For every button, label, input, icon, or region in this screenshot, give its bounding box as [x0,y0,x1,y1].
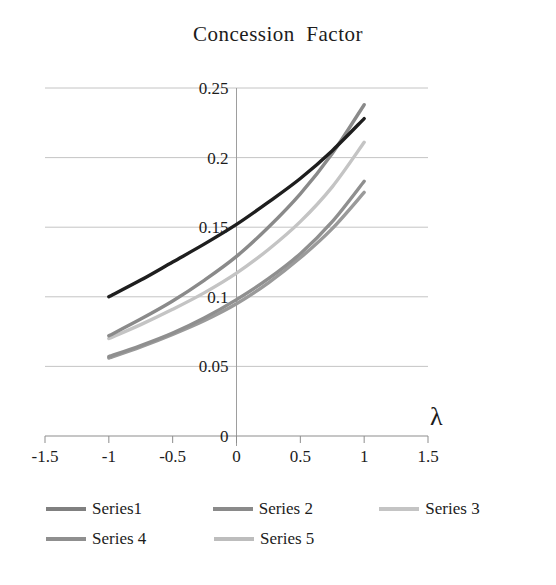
y-axis-tick-label: 0 [220,427,229,446]
x-axis-tick-label: -1.5 [32,447,59,466]
legend-item-series-2[interactable]: Series 2 [197,499,364,519]
legend-swatch-icon [214,537,254,541]
y-axis-tick-label: 0.15 [199,218,229,237]
x-axis-tick-label: 1.5 [417,447,438,466]
x-axis-tick-label: 0.5 [290,447,311,466]
legend-label: Series 3 [425,499,479,519]
legend-label: Series1 [92,499,142,519]
legend-swatch-icon [213,507,253,511]
legend-label: Series 5 [260,529,314,549]
x-axis-tick-label: -1 [102,447,116,466]
y-axis-tick-label: 0.2 [207,149,228,168]
legend-swatch-icon [379,507,419,511]
x-axis-tick-label: 0 [232,447,241,466]
y-axis-tick-label: 0.05 [199,357,229,376]
legend-row: Series1Series 2Series 3 [30,494,530,524]
legend-swatch-icon [46,537,86,541]
x-axis-label-lambda: λ [430,402,443,432]
plot-area: 0.250.20.150.10.050-1.5-1-0.500.511.5 [0,0,556,500]
legend-item-series-5[interactable]: Series 5 [198,529,366,549]
chart-container: Concession Factor 0.250.20.150.10.050-1.… [0,0,556,585]
legend-item-series1[interactable]: Series1 [30,499,197,519]
legend-item-series-4[interactable]: Series 4 [30,529,198,549]
legend-label: Series 2 [259,499,313,519]
y-axis-tick-label: 0.25 [199,79,229,98]
legend-item-series-3[interactable]: Series 3 [363,499,530,519]
legend-row: Series 4Series 5 [30,524,530,554]
x-axis-tick-label: -0.5 [159,447,186,466]
legend-label: Series 4 [92,529,146,549]
x-axis-tick-label: 1 [360,447,369,466]
chart-legend: Series1Series 2Series 3Series 4Series 5 [30,494,530,554]
legend-swatch-icon [46,507,86,511]
